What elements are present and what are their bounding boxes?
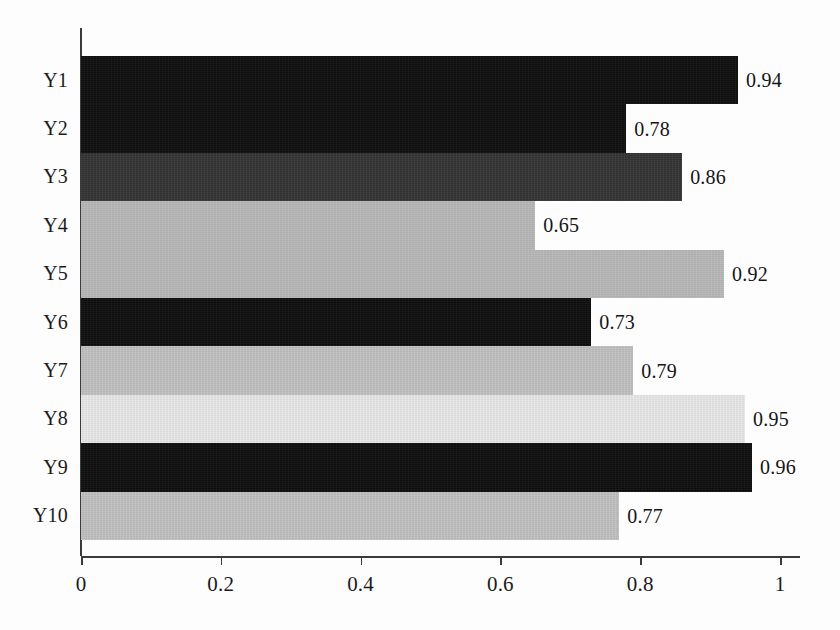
bar-value-label: 0.78	[634, 119, 670, 139]
y-tick-label-y8: Y8	[0, 395, 68, 443]
bar-row[interactable]: 0.78	[81, 104, 780, 152]
bar-chart: Y1Y2Y3Y4Y5Y6Y7Y8Y9Y10 0.940.780.860.650.…	[0, 0, 840, 630]
bar-y3[interactable]	[81, 153, 682, 201]
y-tick-label-y10: Y10	[0, 492, 68, 540]
bar-value-label: 0.96	[760, 457, 796, 477]
bar-y9[interactable]	[81, 443, 752, 491]
x-tick-label: 0	[76, 572, 87, 597]
bar-y2[interactable]	[81, 104, 626, 152]
y-tick-label-y3: Y3	[0, 153, 68, 201]
bar-y5[interactable]	[81, 250, 724, 298]
bar-value-label: 0.92	[732, 264, 768, 284]
x-tick-label: 0.2	[207, 572, 234, 597]
bar-y6[interactable]	[81, 298, 591, 346]
bar-row[interactable]: 0.77	[81, 492, 780, 540]
bar-y4[interactable]	[81, 201, 535, 249]
bar-row[interactable]: 0.73	[81, 298, 780, 346]
bar-row[interactable]: 0.94	[81, 56, 780, 104]
bar-y1[interactable]	[81, 56, 738, 104]
bar-value-label: 0.86	[690, 167, 726, 187]
x-tick-label: 0.4	[347, 572, 374, 597]
bar-value-label: 0.94	[746, 70, 782, 90]
y-tick-label-y1: Y1	[0, 56, 68, 104]
y-tick-label-y7: Y7	[0, 346, 68, 394]
y-tick-label-y6: Y6	[0, 298, 68, 346]
bar-y7[interactable]	[81, 346, 633, 394]
bar-value-label: 0.77	[627, 506, 663, 526]
x-tick-label: 1	[775, 572, 786, 597]
bar-value-label: 0.95	[753, 409, 789, 429]
bar-row[interactable]: 0.79	[81, 346, 780, 394]
bar-value-label: 0.73	[599, 312, 635, 332]
bar-y8[interactable]	[81, 395, 745, 443]
x-tick-label: 0.6	[487, 572, 514, 597]
bar-row[interactable]: 0.96	[81, 443, 780, 491]
bar-row[interactable]: 0.92	[81, 250, 780, 298]
y-tick-label-y5: Y5	[0, 250, 68, 298]
y-tick-label-y9: Y9	[0, 443, 68, 491]
bar-y10[interactable]	[81, 492, 619, 540]
y-tick-label-y4: Y4	[0, 201, 68, 249]
plot-area: 0.940.780.860.650.920.730.790.950.960.77	[81, 56, 780, 540]
bar-row[interactable]: 0.65	[81, 201, 780, 249]
y-axis-tick-labels: Y1Y2Y3Y4Y5Y6Y7Y8Y9Y10	[0, 56, 68, 540]
bar-value-label: 0.65	[543, 215, 579, 235]
y-tick-label-y2: Y2	[0, 104, 68, 152]
bar-value-label: 0.79	[641, 361, 677, 381]
x-axis-line	[81, 556, 800, 558]
bar-row[interactable]: 0.86	[81, 153, 780, 201]
bar-row[interactable]: 0.95	[81, 395, 780, 443]
x-tick-label: 0.8	[627, 572, 654, 597]
